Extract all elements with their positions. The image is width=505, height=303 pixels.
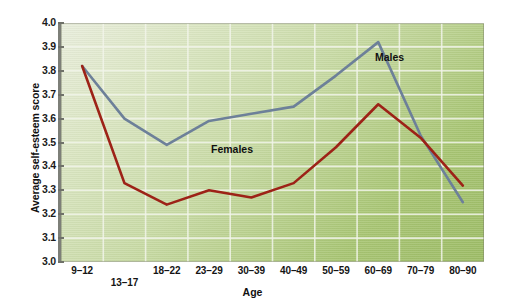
- y-tick-label: 3.9: [18, 40, 56, 52]
- y-tick-mark: [58, 165, 64, 167]
- x-tick-label: 23–29: [195, 265, 222, 276]
- y-tick-mark: [58, 46, 64, 48]
- y-tick-mark: [58, 237, 64, 239]
- x-tick-label: 80–90: [449, 265, 476, 276]
- y-tick-mark: [58, 189, 64, 191]
- x-axis-title: Age: [0, 286, 505, 298]
- chart-figure: 3.03.13.23.33.43.53.63.73.83.94.0 9–1213…: [0, 0, 505, 303]
- x-tick-label: 9–12: [71, 265, 93, 276]
- y-axis-title: Average self-esteem score: [29, 58, 41, 238]
- data-lines: [61, 23, 484, 262]
- y-tick-mark: [58, 94, 64, 96]
- series-label-females: Females: [211, 143, 253, 155]
- y-tick-mark: [58, 70, 64, 72]
- x-tick-label: 18–22: [153, 265, 180, 276]
- y-tick-mark: [58, 261, 64, 263]
- y-tick-mark: [58, 213, 64, 215]
- series-label-males: Males: [375, 51, 404, 63]
- series-line-females: [82, 66, 463, 205]
- x-tick-label: 40–49: [280, 265, 307, 276]
- y-tick-mark: [58, 142, 64, 144]
- y-tick-label: 3.0: [18, 255, 56, 267]
- x-tick-label: 30–39: [238, 265, 265, 276]
- x-tick-label: 60–69: [365, 265, 392, 276]
- y-tick-mark: [58, 118, 64, 120]
- y-tick-label: 4.0: [18, 16, 56, 28]
- x-tick-label: 70–79: [407, 265, 434, 276]
- y-tick-mark: [58, 22, 64, 24]
- series-line-males: [82, 42, 463, 202]
- plot-area: [61, 23, 484, 262]
- x-tick-label: 50–59: [322, 265, 349, 276]
